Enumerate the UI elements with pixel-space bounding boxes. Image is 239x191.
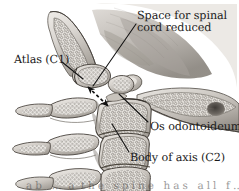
- label-os-odontoideum: Os odontoideum: [150, 121, 239, 133]
- label-atlas-c1: Atlas (C1): [14, 54, 69, 66]
- medical-illustration-figure: Space for spinal cord reduced Atlas (C1)…: [0, 0, 239, 191]
- os-odontoideum-ossicle: [108, 76, 134, 94]
- foramen-opening: [207, 102, 225, 116]
- label-space-for-spinal-cord: Space for spinal cord reduced: [137, 10, 227, 35]
- atlas-c1-anterior-arch: [73, 64, 111, 88]
- label-body-of-axis-c2: Body of axis (C2): [130, 152, 225, 164]
- caption-partial-cropped: a b … a t h e s p i n e h a s a l l f …: [26, 180, 239, 191]
